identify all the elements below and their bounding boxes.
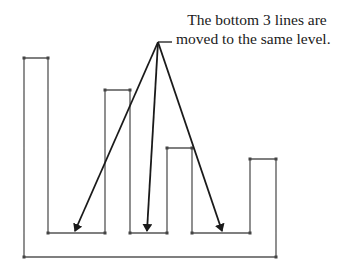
vertex-markers xyxy=(23,57,278,259)
arrows xyxy=(75,42,222,231)
arrow-left xyxy=(75,42,158,231)
annotation-text: The bottom 3 lines are moved to the same… xyxy=(176,10,338,48)
arrow-middle xyxy=(147,42,158,231)
profile-outline xyxy=(24,58,276,257)
annotation-line-1: The bottom 3 lines are xyxy=(176,10,338,29)
annotation-line-2: moved to the same level. xyxy=(176,29,338,48)
